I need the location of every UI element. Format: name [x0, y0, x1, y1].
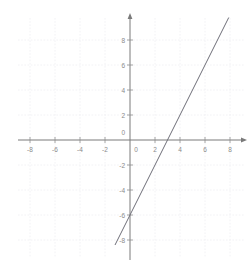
x-tick-label: 6	[203, 146, 207, 153]
x-tick-label: -8	[27, 146, 33, 153]
y-tick-label: -8	[119, 237, 125, 244]
x-tick-label: 8	[228, 146, 232, 153]
data-series-line	[115, 18, 229, 246]
x-tick-label: -2	[102, 146, 108, 153]
plot-svg: -8 -6 -4 -2 0 2 4 6 8 8 6 4 2 0 -2 -4 -6…	[0, 0, 250, 262]
y-tick-label: -6	[119, 212, 125, 219]
y-tick-label: -4	[119, 187, 125, 194]
y-tick-label: 2	[121, 112, 125, 119]
y-tick-label: -2	[119, 162, 125, 169]
x-tick-label: 2	[153, 146, 157, 153]
y-tick-label: 8	[121, 37, 125, 44]
line-segment	[115, 18, 229, 246]
x-tick-label: -4	[77, 146, 83, 153]
x-tick-label: 4	[178, 146, 182, 153]
cartesian-plot: -8 -6 -4 -2 0 2 4 6 8 8 6 4 2 0 -2 -4 -6…	[0, 0, 250, 262]
y-axis-arrow-icon	[128, 13, 133, 19]
x-tick-label-origin: 0	[134, 146, 138, 153]
y-tick-label: 4	[121, 87, 125, 94]
x-axis-arrow-icon	[241, 138, 247, 143]
y-tick-label-origin: 0	[121, 129, 125, 136]
x-tick-label: -6	[52, 146, 58, 153]
y-tick-label: 6	[121, 62, 125, 69]
